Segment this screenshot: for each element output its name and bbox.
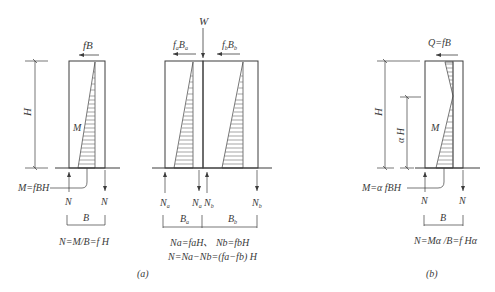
moment-callout: M=α fBH — [361, 182, 402, 193]
load-label: W — [199, 15, 209, 27]
callout-leader — [407, 168, 444, 188]
partial-height-label: α H — [395, 127, 406, 143]
reaction-label-na-left: Na — [159, 197, 170, 209]
force-a-label: faBa — [173, 39, 188, 51]
height-label: H — [372, 107, 384, 117]
width-label: B — [440, 212, 446, 223]
reaction-label-na-right: Na — [191, 197, 202, 209]
wall-moment-diagram: fB — [0, 0, 495, 292]
reaction-right-label: N — [100, 196, 109, 207]
reaction-right-label: N — [458, 195, 467, 206]
width-b-label: Bb — [228, 213, 237, 225]
moment-diagram — [78, 62, 95, 168]
panel-a-label: (a) — [137, 268, 149, 280]
reaction-left-label: N — [64, 196, 73, 207]
force-label: fB — [83, 39, 93, 51]
reaction-label-nb-right: Nb — [251, 197, 262, 209]
height-label: H — [21, 107, 33, 117]
equation: N=Mα /B=f Hα — [413, 235, 478, 246]
moment-label: M — [430, 122, 440, 133]
equation-1: Na=faH、 Nb=fbH — [169, 237, 250, 248]
force-b-label: fbBb — [222, 39, 237, 51]
force-label: Q=fB — [428, 37, 451, 48]
panel-b-label: (b) — [426, 268, 438, 280]
width-label: B — [83, 212, 89, 223]
width-a-label: Ba — [180, 213, 189, 225]
equation-2: N=Na−Nb=(fa−fb) H — [167, 251, 258, 263]
moment-label: M — [72, 122, 82, 133]
moment-callout: M=fBH — [17, 182, 50, 193]
reaction-label-nb-left: Nb — [203, 197, 214, 209]
moment-diagram — [436, 61, 453, 168]
equation: N=M/B=f H — [58, 236, 110, 247]
moment-diagram-a — [174, 62, 193, 168]
left-wall-diagram: fB — [17, 39, 120, 247]
width-dimension-ab — [163, 215, 257, 228]
moment-diagram-b — [222, 62, 243, 168]
right-wall-diagram: Q=fB — [361, 37, 480, 280]
reaction-left-label: N — [420, 195, 429, 206]
callout-leader — [50, 168, 87, 188]
double-wall-diagram: W faBa fbBb — [137, 15, 272, 280]
